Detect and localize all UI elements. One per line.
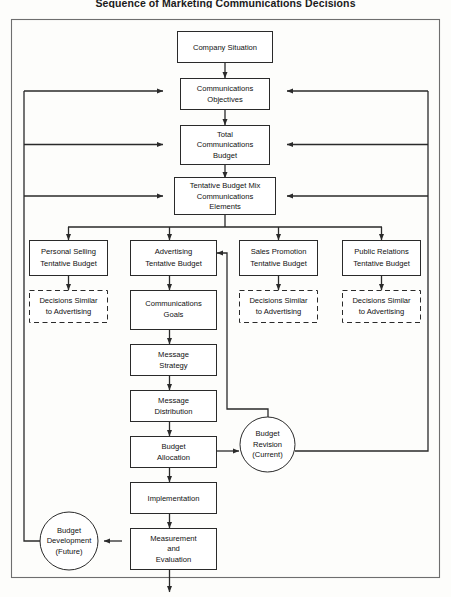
node-advertising-line2: Tentative Budget [145,259,202,268]
node-similar-sp-line2: to Advertising [256,307,302,316]
node-public-relations-line2: Tentative Budget [353,259,410,268]
node-budget-revision-line1: Budget [255,429,280,438]
node-sales-promotion-line1: Sales Promotion [251,247,307,256]
node-personal-selling-line1: Personal Selling [41,247,96,256]
node-decisions-similar-public-relations[interactable]: Decisions Similar to Advertising [343,291,421,323]
node-budget-development-line2: Development [47,536,93,545]
node-measurement-line3: Evaluation [156,555,191,564]
node-total-budget-line3: Budget [213,151,238,160]
node-comm-goals-line1: Communications [145,299,202,308]
node-advertising-line1: Advertising [155,247,193,256]
edge-revision-to-advertising [217,253,268,417]
node-personal-selling[interactable]: Personal Selling Tentative Budget [30,241,108,276]
node-tentative-budget-mix[interactable]: Tentative Budget Mix Communications Elem… [175,178,276,215]
node-total-budget-line2: Communications [197,140,254,149]
node-budget-allocation[interactable]: Budget Allocation [131,437,217,468]
node-similar-ps-line1: Decisions Similar [39,296,98,305]
node-communications-objectives[interactable]: Communications Objectives [181,79,270,110]
node-similar-sp-line1: Decisions Similar [249,296,308,305]
node-similar-pr-line1: Decisions Similar [352,296,411,305]
node-implementation[interactable]: Implementation [131,483,217,514]
node-communications-objectives-line1: Communications [197,84,254,93]
node-public-relations-line1: Public Relations [354,247,409,256]
node-sales-promotion-line2: Tentative Budget [250,259,307,268]
node-message-distribution-line2: Distribution [155,407,193,416]
node-advertising[interactable]: Advertising Tentative Budget [131,241,217,276]
node-total-budget-line1: Total [217,130,233,139]
node-measurement-line1: Measurement [150,534,197,543]
node-measurement-evaluation[interactable]: Measurement and Evaluation [131,529,217,570]
node-budget-revision-line3: (Current) [252,450,283,459]
node-budget-revision[interactable]: Budget Revision (Current) [240,417,295,472]
node-company-situation-label: Company Situation [193,43,257,52]
node-measurement-line2: and [167,544,180,553]
node-sales-promotion[interactable]: Sales Promotion Tentative Budget [240,241,318,276]
edge-mix-distribution-bar [68,214,382,227]
node-budget-development[interactable]: Budget Development (Future) [40,512,98,570]
node-communications-goals[interactable]: Communications Goals [131,291,217,330]
node-tentative-mix-line1: Tentative Budget Mix [190,181,261,190]
node-message-strategy-line1: Message [158,350,189,359]
node-communications-objectives-line2: Objectives [207,95,243,104]
node-message-strategy[interactable]: Message Strategy [131,345,217,376]
node-message-distribution-line1: Message [158,396,189,405]
flowchart-canvas: Company Situation Communications Objecti… [0,0,451,597]
node-budget-allocation-line1: Budget [161,442,186,451]
node-public-relations[interactable]: Public Relations Tentative Budget [343,241,421,276]
node-tentative-mix-line2: Communications [197,192,254,201]
node-total-communications-budget[interactable]: Total Communications Budget [181,126,270,165]
node-budget-revision-line2: Revision [253,440,282,449]
node-budget-development-line1: Budget [57,526,82,535]
node-company-situation[interactable]: Company Situation [178,32,273,63]
node-decisions-similar-sales-promotion[interactable]: Decisions Similar to Advertising [240,291,318,323]
node-similar-pr-line2: to Advertising [359,307,405,316]
node-similar-ps-line2: to Advertising [46,307,92,316]
node-tentative-mix-line3: Elements [209,202,241,211]
node-message-distribution[interactable]: Message Distribution [131,391,217,422]
figure-root: Sequence of Marketing Communications Dec… [0,0,451,597]
node-budget-allocation-line2: Allocation [157,453,190,462]
node-decisions-similar-personal-selling[interactable]: Decisions Similar to Advertising [30,291,108,323]
node-budget-development-line3: (Future) [55,547,82,556]
node-comm-goals-line2: Goals [164,310,184,319]
node-implementation-label: Implementation [148,494,200,503]
node-personal-selling-line2: Tentative Budget [40,259,97,268]
node-message-strategy-line2: Strategy [159,361,187,370]
